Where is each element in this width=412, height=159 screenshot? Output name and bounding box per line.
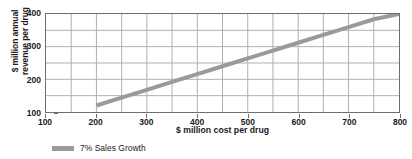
y-tick-label: 400 bbox=[17, 9, 41, 18]
x-tick-mark bbox=[146, 114, 147, 118]
y-tick-label: 300 bbox=[17, 42, 41, 51]
legend-label-7pct-sales-growth: 7% Sales Growth bbox=[80, 143, 146, 153]
chart-legend: 7% Sales Growth bbox=[52, 143, 146, 153]
y-tick-label: 200 bbox=[17, 75, 41, 84]
x-tick-mark bbox=[299, 114, 300, 118]
x-tick-mark bbox=[400, 114, 401, 118]
plot-area bbox=[45, 13, 400, 113]
legend-swatch-7pct-sales-growth bbox=[52, 146, 74, 151]
x-tick-mark bbox=[45, 114, 46, 118]
x-tick-mark bbox=[96, 114, 97, 118]
chart-container: $ million annual revenue per drug 100200… bbox=[0, 0, 412, 159]
plot-svg bbox=[46, 14, 399, 112]
x-tick-mark bbox=[349, 114, 350, 118]
x-tick-mark bbox=[248, 114, 249, 118]
x-axis-title: $ million cost per drug bbox=[45, 125, 400, 136]
x-tick-mark bbox=[197, 114, 198, 118]
y-axis-ticks: 100200300400 bbox=[13, 13, 41, 113]
